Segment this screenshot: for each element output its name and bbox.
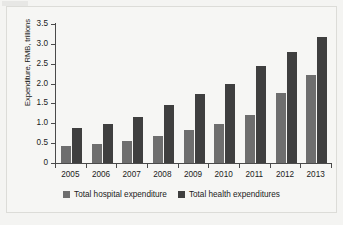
bar <box>225 84 235 163</box>
y-axis-title: Expenditure, RMB, trillions <box>23 0 32 128</box>
x-tick-label: 2007 <box>123 170 141 179</box>
x-tick-label: 2009 <box>184 170 202 179</box>
x-axis-line <box>55 163 332 164</box>
x-tick <box>300 164 301 168</box>
x-tick <box>147 164 148 168</box>
y-tick-label: 3.5 <box>37 19 48 28</box>
bar <box>287 52 297 163</box>
bar <box>61 146 71 163</box>
x-tick <box>116 164 117 168</box>
x-tick <box>178 164 179 168</box>
y-tick-label: 1.5 <box>37 98 48 107</box>
x-tick-label: 2008 <box>153 170 171 179</box>
x-tick <box>331 164 332 168</box>
x-tick-label: 2013 <box>307 170 325 179</box>
legend-label: Total health expenditures <box>189 190 280 199</box>
legend-swatch <box>63 191 70 198</box>
legend-item: Total health expenditures <box>178 190 280 199</box>
y-tick-label: 3.0 <box>37 39 48 48</box>
bar <box>184 130 194 163</box>
bar <box>92 144 102 163</box>
x-tick <box>208 164 209 168</box>
bar <box>306 75 316 163</box>
bar <box>256 66 266 163</box>
x-tick-label: 2005 <box>61 170 79 179</box>
x-tick-label: 2010 <box>215 170 233 179</box>
chart-figure: Expenditure, RMB, trillions 00.51.01.52.… <box>0 0 343 225</box>
plot-area <box>55 24 331 163</box>
bar <box>133 117 143 163</box>
y-tick-label: 2.5 <box>37 59 48 68</box>
legend-item: Total hospital expenditure <box>63 190 167 199</box>
bar <box>214 124 224 163</box>
x-tick <box>239 164 240 168</box>
legend-label: Total hospital expenditure <box>74 190 167 199</box>
y-tick-label: 0 <box>43 158 48 167</box>
y-tick-label: 0.5 <box>37 138 48 147</box>
x-tick-label: 2011 <box>246 170 264 179</box>
x-tick <box>86 164 87 168</box>
bar <box>153 136 163 163</box>
bar <box>195 94 205 164</box>
bar <box>72 128 82 163</box>
bar <box>245 115 255 163</box>
bar <box>103 124 113 163</box>
x-tick-label: 2006 <box>92 170 110 179</box>
x-tick <box>270 164 271 168</box>
bar <box>164 105 174 163</box>
chart-legend: Total hospital expenditureTotal health e… <box>0 190 343 199</box>
bar <box>122 141 132 163</box>
y-tick-label: 1.0 <box>37 118 48 127</box>
legend-swatch <box>178 191 185 198</box>
x-tick-label: 2012 <box>276 170 294 179</box>
bar <box>317 37 327 163</box>
x-tick <box>55 164 56 168</box>
y-tick-label: 2.0 <box>37 79 48 88</box>
bar <box>276 93 286 163</box>
